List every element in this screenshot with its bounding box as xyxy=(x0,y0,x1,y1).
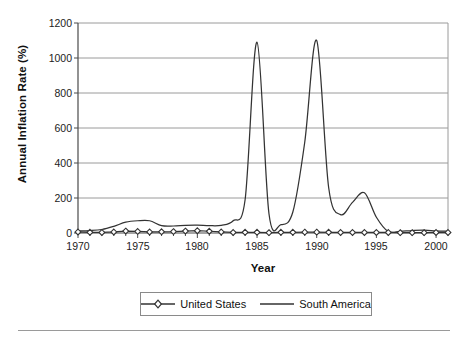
x-axis-title: Year xyxy=(78,262,448,274)
legend-label-south-america: South America xyxy=(299,298,371,310)
data-point-marker-1976 xyxy=(147,229,153,235)
data-point-marker-1989 xyxy=(302,229,308,235)
legend-swatch-line-icon xyxy=(260,298,294,310)
x-axis-ticks xyxy=(78,233,448,238)
legend-entry-south-america: South America xyxy=(260,298,371,310)
data-point-marker-1970 xyxy=(75,229,81,235)
data-point-marker-1983 xyxy=(230,230,236,236)
legend-entry-united-states: United States xyxy=(141,298,246,310)
data-point-marker-1973 xyxy=(111,229,117,235)
plot-area xyxy=(0,0,467,341)
data-point-marker-1984 xyxy=(242,229,248,235)
data-point-marker-1994 xyxy=(362,230,368,236)
data-point-marker-1988 xyxy=(290,229,296,235)
data-point-marker-1985 xyxy=(254,229,260,235)
data-point-marker-1991 xyxy=(326,229,332,235)
data-point-marker-1977 xyxy=(159,229,165,235)
data-point-marker-1982 xyxy=(218,229,224,235)
data-point-marker-1978 xyxy=(171,229,177,235)
legend-swatch-diamond-icon xyxy=(141,298,175,310)
footer-divider xyxy=(18,330,450,331)
data-point-marker-1992 xyxy=(338,230,344,236)
data-point-marker-2001 xyxy=(445,230,451,236)
series-line-south-america xyxy=(78,40,448,233)
data-point-marker-1972 xyxy=(99,230,105,236)
series-line-united-states xyxy=(78,231,448,233)
inflation-rate-line-chart: Annual Inflation Rate (%) 1200 1000 800 … xyxy=(0,0,467,341)
data-point-marker-1986 xyxy=(266,230,272,236)
data-point-marker-1993 xyxy=(350,230,356,236)
data-point-marker-1995 xyxy=(373,230,379,236)
legend-label-united-states: United States xyxy=(180,298,246,310)
chart-legend: United States South America xyxy=(140,292,372,316)
data-point-marker-1987 xyxy=(278,229,284,235)
data-point-marker-1990 xyxy=(314,229,320,235)
